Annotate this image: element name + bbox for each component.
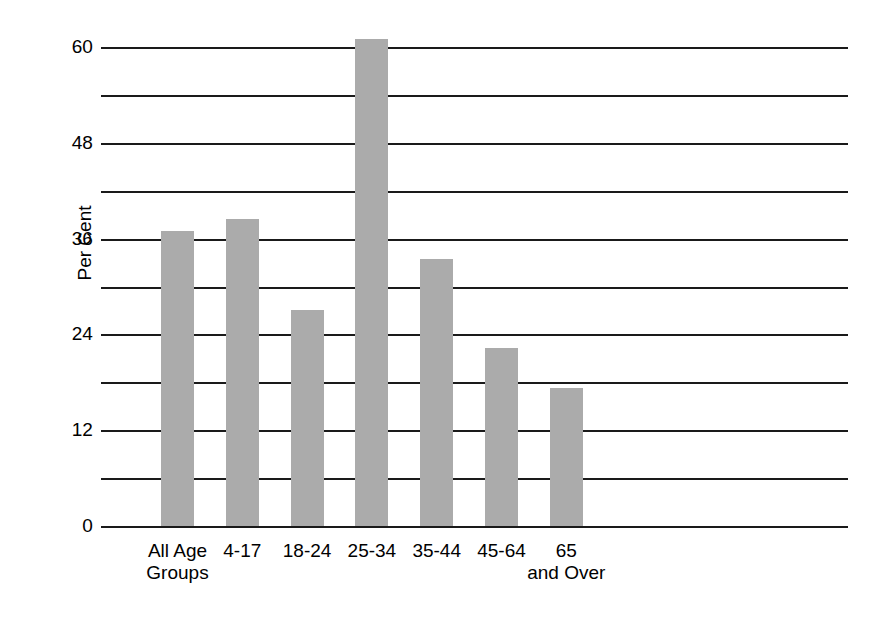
y-axis-tick-mark: [101, 382, 118, 384]
x-axis-tick-label-line: 65: [501, 540, 631, 562]
y-axis-tick-label: 24: [23, 324, 93, 343]
x-axis-tick-label-line: Groups: [113, 562, 243, 584]
y-axis-tick-mark: [101, 430, 118, 432]
bar: [550, 388, 583, 526]
y-axis-tick-label: 48: [23, 133, 93, 152]
y-axis-tick-label: 36: [23, 229, 93, 248]
y-axis-tick-mark: [101, 334, 118, 336]
plot-area: [118, 47, 848, 526]
bar: [291, 310, 324, 526]
y-axis-tick-label: 12: [23, 420, 93, 439]
x-axis-tick-label-line: and Over: [501, 562, 631, 584]
bar: [226, 219, 259, 526]
bar: [161, 231, 194, 526]
bar: [485, 348, 518, 526]
bar: [355, 39, 388, 526]
y-axis-tick-mark: [101, 239, 118, 241]
y-axis-tick-label: 60: [23, 37, 93, 56]
y-axis-tick-mark: [101, 191, 118, 193]
bar: [420, 259, 453, 526]
gridline: [118, 191, 848, 193]
y-axis-tick-label: 0: [23, 516, 93, 535]
x-axis-tick-label: 65and Over: [501, 540, 631, 584]
y-axis-tick-mark: [101, 287, 118, 289]
y-axis-tick-mark: [101, 143, 118, 145]
y-axis-tick-mark: [101, 478, 118, 480]
gridline: [118, 143, 848, 145]
bar-chart-figure: Per Cent 01224364860 All AgeGroups4-1718…: [0, 0, 891, 621]
y-axis-tick-mark: [101, 95, 118, 97]
gridline: [118, 95, 848, 97]
gridline: [118, 47, 848, 49]
y-axis-tick-mark: [101, 526, 118, 528]
y-axis-tick-mark: [101, 47, 118, 49]
x-axis-baseline: [118, 526, 848, 528]
